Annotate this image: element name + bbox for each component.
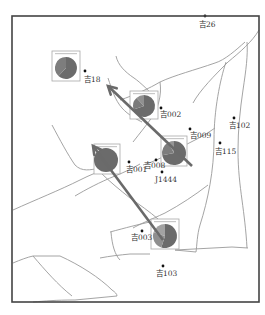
well-label: 吉26 — [199, 20, 216, 29]
pie-title-bar — [97, 146, 117, 147]
well-marker-icon — [128, 161, 131, 164]
well-label: 吉008 — [144, 161, 166, 170]
well-label: 吉003 — [131, 233, 153, 242]
well-marker-icon — [189, 128, 192, 131]
well-label: 吉102 — [229, 121, 251, 130]
pie-title-bar — [164, 138, 184, 139]
map-background — [0, 0, 265, 315]
pie-title-bar — [133, 93, 155, 94]
map-canvas: 吉26吉18吉002吉009吉102吉115吉001吉008J1444吉003吉… — [0, 0, 265, 315]
well-ji008: 吉008 — [144, 159, 166, 170]
well-label: J1444 — [154, 175, 177, 184]
pie-chart-pie-ji18 — [52, 51, 80, 81]
well-marker-icon — [161, 171, 164, 174]
well-marker-icon — [141, 230, 144, 233]
well-label: 吉002 — [160, 110, 182, 119]
well-marker-icon — [84, 70, 87, 73]
well-label: 吉103 — [156, 269, 178, 278]
pie-chart-pie-ji002 — [130, 91, 158, 119]
well-marker-icon — [219, 142, 222, 145]
well-label: 吉115 — [215, 147, 237, 156]
pie-title-bar — [154, 221, 176, 222]
well-marker-icon — [233, 117, 236, 120]
pie-chart-pie-ji003 — [151, 219, 179, 249]
well-marker-icon — [160, 107, 163, 110]
well-label: 吉18 — [84, 75, 101, 84]
pie-title-bar — [55, 53, 77, 54]
well-label: 吉009 — [190, 131, 212, 140]
well-marker-icon — [162, 265, 165, 268]
